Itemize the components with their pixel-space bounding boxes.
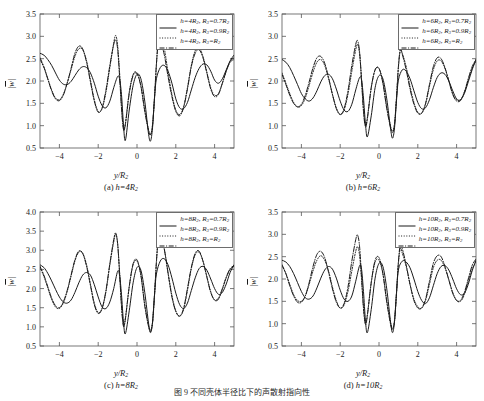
series-group bbox=[282, 235, 476, 333]
legend-line-swatch bbox=[401, 28, 419, 36]
legend-item[interactable]: h=8R2, R3=0.7R2 bbox=[159, 215, 229, 225]
y-tick-label: 3.0 bbox=[26, 246, 36, 255]
legend-label: h=8R2, R3=0.7R2 bbox=[180, 215, 229, 225]
legend-line-swatch bbox=[401, 18, 419, 26]
y-tick-label: 1.5 bbox=[268, 99, 278, 108]
y-tick-label: 3.0 bbox=[268, 32, 278, 41]
y-tick-label: 2.5 bbox=[268, 55, 278, 64]
legend-line-swatch bbox=[159, 28, 177, 36]
legend-label: h=8R2, R3=R2 bbox=[180, 235, 220, 245]
x-tick-label: 4 bbox=[455, 152, 459, 161]
legend-line-swatch bbox=[401, 38, 419, 46]
y-tick-label: 1.0 bbox=[268, 122, 278, 131]
legend-label: h=6R2, R3=R2 bbox=[422, 37, 462, 47]
panel-caption-b: (b) h=6R2 bbox=[242, 182, 484, 192]
figure-caption: 图 9 不同壳体半径比下的声散射指向性 bbox=[0, 386, 484, 400]
y-axis-label: |w| bbox=[6, 277, 16, 287]
x-tick-label: −2 bbox=[94, 350, 103, 359]
legend-label: h=10R2, R3=0.9R2 bbox=[419, 225, 471, 235]
x-tick-label: 2 bbox=[174, 350, 178, 359]
legend-line-swatch bbox=[159, 226, 177, 234]
legend-item[interactable]: h=4R2, R3=0.9R2 bbox=[159, 27, 229, 37]
legend-label: h=8R2, R3=0.9R2 bbox=[180, 225, 229, 235]
y-tick-label: 1.5 bbox=[268, 297, 278, 306]
x-tick-label: 2 bbox=[416, 350, 420, 359]
legend-line-swatch bbox=[159, 38, 177, 46]
legend-line-swatch bbox=[159, 236, 177, 244]
legend-item[interactable]: h=8R2, R3=R2 bbox=[159, 235, 229, 245]
legend-item[interactable]: h=4R2, R3=R2 bbox=[159, 37, 229, 47]
panel-caption-a: (a) h=4R2 bbox=[0, 182, 242, 192]
x-tick-label: −2 bbox=[336, 152, 345, 161]
legend-line-swatch bbox=[398, 236, 416, 244]
figure-container: 0.51.01.52.02.53.03.5−4−2024|w|y/R2(a) h… bbox=[0, 0, 484, 401]
x-tick-label: −2 bbox=[94, 152, 103, 161]
legend-b: h=6R2, R3=0.7R2h=6R2, R3=0.9R2h=6R2, R3=… bbox=[398, 14, 475, 50]
y-tick-label: 2.5 bbox=[26, 265, 36, 274]
series-line bbox=[282, 260, 476, 333]
y-axis-label: |w| bbox=[248, 277, 258, 287]
x-tick-label: 4 bbox=[455, 350, 459, 359]
y-tick-label: 3.5 bbox=[26, 10, 36, 19]
x-tick-label: 2 bbox=[174, 152, 178, 161]
series-line bbox=[282, 44, 476, 131]
y-tick-label: 2.5 bbox=[26, 55, 36, 64]
legend-line-swatch bbox=[398, 226, 416, 234]
y-tick-label: 1.5 bbox=[26, 99, 36, 108]
plot-panel-d: 0.51.01.52.02.53.03.5−4−2024|w|y/R2(d) h… bbox=[242, 198, 484, 393]
legend-label: h=10R2, R3=R2 bbox=[419, 235, 462, 245]
x-tick-label: −4 bbox=[297, 350, 306, 359]
series-line bbox=[282, 235, 476, 329]
y-tick-label: 2.0 bbox=[26, 285, 36, 294]
x-tick-label: 4 bbox=[213, 350, 217, 359]
x-tick-label: 0 bbox=[135, 350, 139, 359]
y-tick-label: 3.5 bbox=[268, 10, 278, 19]
legend-label: h=4R2, R3=0.7R2 bbox=[180, 17, 229, 27]
y-tick-label: 3.0 bbox=[26, 32, 36, 41]
series-line bbox=[40, 39, 234, 135]
legend-item[interactable]: h=6R2, R3=0.7R2 bbox=[401, 17, 471, 27]
x-tick-label: 2 bbox=[416, 152, 420, 161]
x-tick-label: −4 bbox=[55, 350, 64, 359]
y-tick-label: 1.0 bbox=[26, 323, 36, 332]
legend-item[interactable]: h=8R2, R3=0.9R2 bbox=[159, 225, 229, 235]
y-tick-label: 1.5 bbox=[26, 304, 36, 313]
legend-item[interactable]: h=6R2, R3=R2 bbox=[401, 37, 471, 47]
legend-item[interactable]: h=4R2, R3=0.7R2 bbox=[159, 17, 229, 27]
series-line bbox=[282, 60, 476, 139]
y-tick-label: 3.5 bbox=[268, 208, 278, 217]
y-tick-label: 0.5 bbox=[26, 342, 36, 351]
legend-label: h=6R2, R3=0.7R2 bbox=[422, 17, 471, 27]
x-axis-label: y/R2 bbox=[242, 170, 484, 180]
legend-label: h=4R2, R3=0.9R2 bbox=[180, 27, 229, 37]
plot-panel-c: 0.51.01.52.02.53.03.54.0−4−2024|w|y/R2(c… bbox=[0, 198, 242, 393]
legend-label: h=4R2, R3=R2 bbox=[180, 37, 220, 47]
series-line bbox=[282, 40, 476, 132]
y-tick-label: 0.5 bbox=[26, 144, 36, 153]
legend-item[interactable]: h=6R2, R3=0.9R2 bbox=[401, 27, 471, 37]
y-tick-label: 3.5 bbox=[26, 227, 36, 236]
legend-item[interactable]: h=10R2, R3=R2 bbox=[398, 235, 471, 245]
y-axis-label: |w| bbox=[248, 79, 258, 89]
legend-label: h=6R2, R3=0.9R2 bbox=[422, 27, 471, 37]
y-tick-label: 2.0 bbox=[26, 77, 36, 86]
x-tick-label: 4 bbox=[213, 152, 217, 161]
x-tick-label: −4 bbox=[297, 152, 306, 161]
y-tick-label: 4.0 bbox=[26, 208, 36, 217]
y-axis-label: |w| bbox=[6, 79, 16, 89]
legend-item[interactable]: h=10R2, R3=0.7R2 bbox=[398, 215, 471, 225]
legend-c: h=8R2, R3=0.7R2h=8R2, R3=0.9R2h=8R2, R3=… bbox=[156, 212, 233, 248]
legend-label: h=10R2, R3=0.7R2 bbox=[419, 215, 471, 225]
x-axis-label: y/R2 bbox=[0, 170, 242, 180]
series-group bbox=[282, 40, 476, 138]
x-tick-label: −2 bbox=[336, 350, 345, 359]
x-axis-label: y/R2 bbox=[242, 368, 484, 378]
legend-item[interactable]: h=10R2, R3=0.9R2 bbox=[398, 225, 471, 235]
legend-line-swatch bbox=[159, 18, 177, 26]
legend-line-swatch bbox=[398, 216, 416, 224]
y-tick-label: 2.0 bbox=[268, 77, 278, 86]
x-axis-label: y/R2 bbox=[0, 368, 242, 378]
x-tick-label: 0 bbox=[377, 350, 381, 359]
y-tick-label: 2.0 bbox=[268, 275, 278, 284]
y-tick-label: 0.5 bbox=[268, 342, 278, 351]
